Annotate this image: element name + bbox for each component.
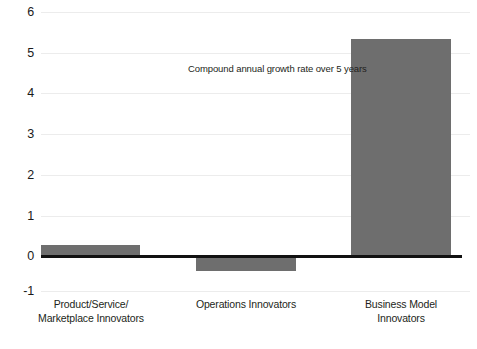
y-tick-label: 2	[4, 168, 34, 182]
category-label-line-2: Marketplace Innovators	[25, 311, 157, 325]
chart-annotation: Compound annual growth rate over 5 years	[188, 63, 367, 74]
category-label-product-service-marketplace-innovators: Product/Service/ Marketplace Innovators	[25, 297, 157, 325]
category-label-line-1: Product/Service/	[54, 298, 129, 310]
category-label-line-1: Business Model	[365, 298, 437, 310]
y-tick-label: 6	[4, 5, 34, 19]
bar-chart: 6 5 4 3 2 1 0 -1 Compound annual growth …	[0, 0, 477, 349]
bar-operations-innovators	[196, 256, 296, 271]
category-label-business-model-innovators: Business Model Innovators	[335, 297, 467, 325]
x-axis-category-labels: Product/Service/ Marketplace Innovators …	[41, 297, 470, 349]
y-axis-labels: 6 5 4 3 2 1 0 -1	[0, 0, 34, 295]
y-tick-label: -1	[4, 284, 34, 298]
category-label-line-2: Innovators	[335, 311, 467, 325]
y-tick-label: 0	[4, 249, 34, 263]
category-label-operations-innovators: Operations Innovators	[180, 297, 312, 311]
plot-area: Compound annual growth rate over 5 years	[41, 0, 470, 295]
y-tick-label: 3	[4, 127, 34, 141]
y-tick-label: 1	[4, 209, 34, 223]
y-tick-label: 4	[4, 86, 34, 100]
y-tick-label: 5	[4, 46, 34, 60]
gridline-6	[41, 12, 470, 13]
gridline-minus-1	[41, 291, 470, 292]
zero-axis-line	[41, 255, 462, 258]
category-label-line-1: Operations Innovators	[196, 298, 296, 310]
